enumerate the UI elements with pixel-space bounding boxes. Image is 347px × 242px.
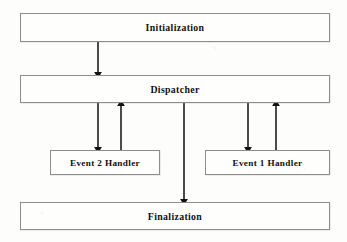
node-dispatcher-label: Dispatcher [150,84,199,95]
node-finalization[interactable]: Finalization [20,202,330,230]
node-event-1-handler-label: Event 1 Handler [232,158,302,168]
node-event-2-handler-label: Event 2 Handler [70,158,140,168]
node-finalization-label: Finalization [148,211,202,222]
node-initialization[interactable]: Initialization [20,13,330,42]
diagram-canvas: Initialization Dispatcher Event 2 Handle… [0,0,347,242]
node-initialization-label: Initialization [146,22,205,33]
node-dispatcher[interactable]: Dispatcher [20,75,330,103]
node-event-2-handler[interactable]: Event 2 Handler [50,150,160,175]
node-event-1-handler[interactable]: Event 1 Handler [205,150,330,175]
